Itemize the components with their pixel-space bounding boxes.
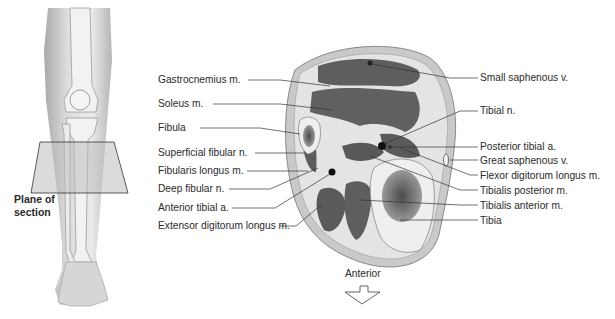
- label-fibularis-longus: Fibularis longus m.: [158, 165, 244, 177]
- leg-illustration: [31, 8, 128, 306]
- label-tibial-nerve: Tibial n.: [480, 105, 515, 117]
- patella: [70, 90, 90, 110]
- foot: [58, 262, 108, 306]
- label-soleus: Soleus m.: [158, 98, 203, 110]
- label-superficial-fibular-nerve: Superficial fibular n.: [158, 147, 247, 159]
- label-fibula: Fibula: [158, 122, 186, 134]
- label-tibialis-anterior: Tibialis anterior m.: [480, 200, 563, 212]
- label-anterior: Anterior: [345, 268, 381, 280]
- label-small-saphenous-vein: Small saphenous v.: [480, 72, 568, 84]
- label-great-saphenous-vein: Great saphenous v.: [480, 155, 568, 167]
- plane-of-section: [31, 142, 128, 193]
- label-tibialis-posterior: Tibialis posterior m.: [480, 185, 568, 197]
- label-posterior-tibial-artery: Posterior tibial a.: [480, 141, 556, 153]
- label-tibia: Tibia: [480, 215, 502, 227]
- plane-of-section-label: Plane of section: [14, 193, 55, 219]
- label-extensor-digitorum-longus: Extensor digitorum longus m.: [158, 220, 290, 232]
- fibula-marrow: [303, 125, 315, 147]
- label-anterior-tibial-artery: Anterior tibial a.: [158, 202, 229, 214]
- great-saphenous-vein: [444, 154, 449, 166]
- label-flexor-digitorum-longus: Flexor digitorum longus m.: [480, 170, 600, 182]
- plane-label-line-1: Plane of: [14, 193, 55, 206]
- tibial-nerve-vessel: [378, 142, 386, 150]
- leg-cross-section: [286, 46, 456, 267]
- plane-label-line-2: section: [14, 206, 55, 219]
- posterior-tibial-artery: [388, 145, 392, 149]
- small-saphenous-vein: [368, 61, 373, 66]
- label-deep-fibular-nerve: Deep fibular n.: [158, 183, 224, 195]
- anterior-arrow-icon: [345, 286, 380, 304]
- label-gastrocnemius: Gastrocnemius m.: [158, 74, 241, 86]
- tibia-marrow: [382, 170, 422, 222]
